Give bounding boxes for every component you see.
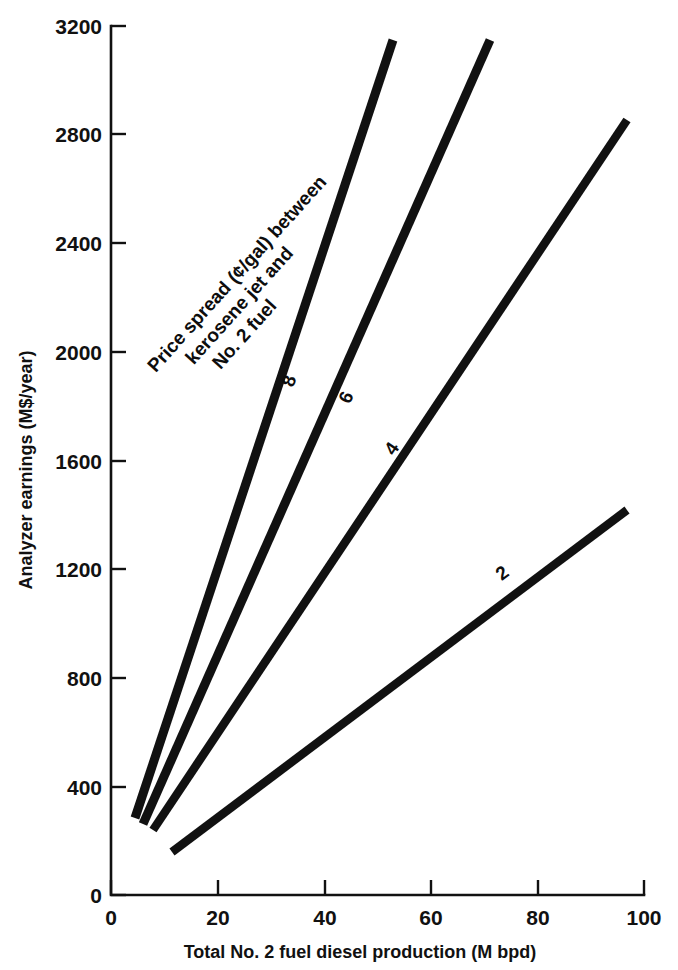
x-tick-marks	[111, 880, 644, 895]
y-axis-title: Analyzer earnings (M$/year)	[16, 350, 36, 589]
x-tick-label-60: 60	[419, 906, 442, 929]
y-tick-label-2400: 2400	[55, 232, 102, 255]
y-tick-label-2000: 2000	[55, 341, 102, 364]
y-tick-label-1200: 1200	[55, 558, 102, 581]
y-tick-label-2800: 2800	[55, 123, 102, 146]
series-line-2	[172, 510, 627, 852]
x-tick-label-40: 40	[313, 906, 336, 929]
chart-page: 3200 2800 2400 2000 1600 1200 800 400 0 …	[0, 0, 678, 970]
y-tick-label-1600: 1600	[55, 450, 102, 473]
series-label-2: 2	[492, 561, 513, 584]
x-tick-label-0: 0	[105, 906, 117, 929]
x-tick-label-20: 20	[206, 906, 229, 929]
y-tick-labels: 3200 2800 2400 2000 1600 1200 800 400 0	[55, 15, 102, 907]
y-tick-label-3200: 3200	[55, 15, 102, 38]
series-line-4	[153, 120, 627, 830]
x-tick-label-100: 100	[626, 906, 661, 929]
y-tick-label-400: 400	[67, 776, 102, 799]
series-labels-group: 8 6 4 2	[277, 372, 512, 584]
series-line-6	[143, 40, 490, 824]
annotation-block: Price spread (¢/gal) between kerosene je…	[143, 171, 364, 407]
series-line-8	[135, 40, 393, 818]
line-chart: 3200 2800 2400 2000 1600 1200 800 400 0 …	[0, 0, 678, 970]
y-tick-marks	[111, 26, 126, 895]
y-tick-label-800: 800	[67, 667, 102, 690]
x-tick-labels: 0 20 40 60 80 100	[105, 906, 661, 929]
series-label-6: 6	[334, 388, 357, 406]
x-axis-title: Total No. 2 fuel diesel production (M bp…	[184, 942, 537, 962]
x-tick-label-80: 80	[526, 906, 549, 929]
axes-group	[111, 26, 644, 895]
axis-lines	[111, 26, 644, 895]
y-tick-label-0: 0	[90, 884, 102, 907]
